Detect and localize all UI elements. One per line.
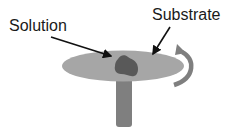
spindle-post — [116, 78, 132, 127]
solution-pointer-arrow — [51, 37, 111, 56]
substrate-pointer-arrow — [153, 27, 170, 54]
substrate-label: Substrate — [152, 7, 220, 23]
solution-label: Solution — [9, 18, 67, 34]
